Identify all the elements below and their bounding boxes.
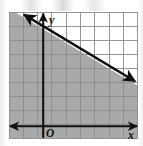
graph-figure: y x O: [0, 0, 143, 146]
x-axis-label: x: [127, 128, 134, 142]
y-axis-label: y: [47, 13, 55, 27]
coordinate-plane-svg: y x O: [0, 0, 143, 146]
origin-label: O: [46, 127, 54, 139]
